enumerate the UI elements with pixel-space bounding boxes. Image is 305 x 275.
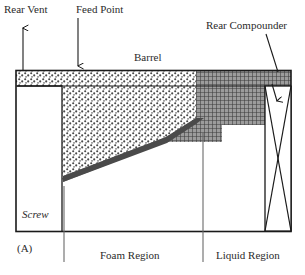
rear-compounder-leader bbox=[266, 34, 278, 72]
rear-vent-label: Rear Vent bbox=[4, 4, 47, 15]
rear-compounder-label: Rear Compounder bbox=[206, 20, 287, 31]
figure-canvas: Rear Vent Feed Point Barrel Rear Compoun… bbox=[0, 0, 305, 275]
panel-label: (A) bbox=[17, 243, 32, 254]
diagram-svg bbox=[0, 0, 305, 275]
liquid-region-label: Liquid Region bbox=[216, 250, 280, 261]
feed-point-label: Feed Point bbox=[76, 4, 123, 15]
screw-label: Screw bbox=[22, 209, 48, 220]
rear-compounder-shape[interactable] bbox=[265, 86, 291, 231]
barrel-label: Barrel bbox=[134, 52, 161, 63]
foam-region-label: Foam Region bbox=[100, 250, 160, 261]
